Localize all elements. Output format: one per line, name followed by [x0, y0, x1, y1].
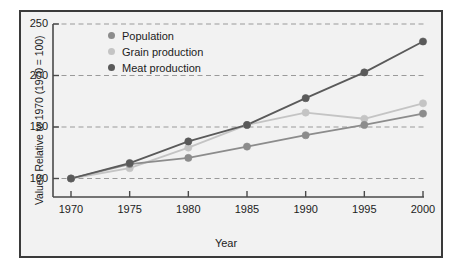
y-axis-title: Values Relative to 1970 (1970 = 100): [33, 36, 45, 205]
chart-figure: 100150200250 197019751980198519901995200…: [0, 0, 452, 268]
legend-label: Grain production: [122, 46, 203, 58]
chart-legend: PopulationGrain productionMeat productio…: [108, 28, 203, 76]
legend-item: Meat production: [108, 60, 203, 75]
legend-marker-icon: [108, 32, 115, 39]
legend-label: Meat production: [122, 62, 201, 74]
x-tick-label: 1985: [225, 203, 269, 215]
line-chart: 100150200250 197019751980198519901995200…: [0, 0, 452, 268]
legend-item: Grain production: [108, 44, 203, 59]
x-tick-label: 2000: [401, 203, 445, 215]
x-axis-title: Year: [0, 237, 452, 249]
legend-marker-icon: [108, 64, 115, 71]
x-tick-label: 1995: [342, 203, 386, 215]
legend-marker-icon: [108, 48, 115, 55]
x-tick-label: 1970: [49, 203, 93, 215]
chart-canvas: [0, 0, 452, 268]
x-tick-label: 1980: [166, 203, 210, 215]
y-tick-label: 250: [14, 17, 48, 29]
legend-label: Population: [122, 30, 174, 42]
x-tick-label: 1975: [108, 203, 152, 215]
legend-item: Population: [108, 28, 203, 43]
x-tick-label: 1990: [284, 203, 328, 215]
